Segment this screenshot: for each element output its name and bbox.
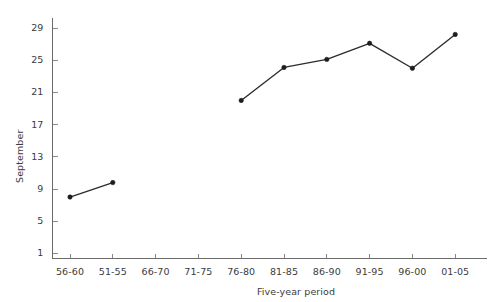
y-axis-title: September [14, 129, 25, 182]
data-point-marker [282, 65, 286, 69]
y-tick-label: 21 [0, 88, 44, 98]
x-tick-label: 51-55 [99, 267, 127, 277]
data-point-marker [367, 41, 371, 45]
x-tick-label: 76-80 [227, 267, 255, 277]
chart-plot-area [0, 0, 488, 302]
y-tick-label: 1 [0, 249, 44, 259]
data-point-marker [410, 66, 414, 70]
y-tick-label: 5 [0, 216, 44, 226]
x-tick-label: 86-90 [313, 267, 341, 277]
series-line-segment [241, 34, 455, 100]
data-point-marker [239, 98, 243, 102]
x-tick-label: 01-05 [441, 267, 469, 277]
x-tick-label: 96-00 [398, 267, 426, 277]
y-tick-label: 29 [0, 23, 44, 33]
data-point-marker [325, 57, 329, 61]
data-point-marker [453, 32, 457, 36]
y-tick-label: 9 [0, 184, 44, 194]
series-line-segment [70, 183, 113, 197]
x-tick-label: 81-85 [270, 267, 298, 277]
data-series-group [68, 32, 458, 199]
x-tick-label: 91-95 [356, 267, 384, 277]
tick-marks-group [53, 28, 456, 259]
y-tick-label: 17 [0, 120, 44, 130]
x-tick-label: 71-75 [184, 267, 212, 277]
x-tick-label: 66-70 [142, 267, 170, 277]
x-tick-label: 56-60 [56, 267, 84, 277]
data-point-marker [68, 195, 72, 199]
x-axis-title: Five-year period [257, 286, 335, 297]
chart-container: 1591317212529 56-6051-5566-7071-7576-808… [0, 0, 488, 302]
y-tick-label: 25 [0, 55, 44, 65]
data-point-marker [111, 180, 115, 184]
